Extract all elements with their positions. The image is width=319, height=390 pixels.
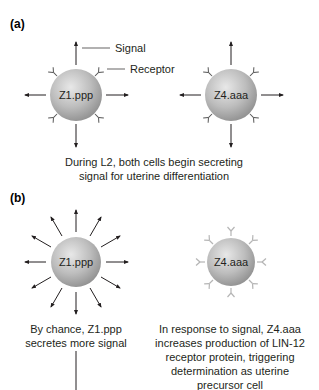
panel-b-cell-z1: Z1.ppp: [25, 210, 128, 314]
panel-b-cell-z4: Z4.aaa: [196, 227, 266, 297]
diagram-canvas: (a) Z1.ppp Signal Receptor: [0, 0, 319, 390]
signal-callout: Signal: [115, 42, 146, 54]
panel-b-right-caption-line4: determination as uterine: [171, 365, 289, 377]
panel-b-left-caption-line2: secretes more signal: [25, 337, 127, 349]
panel-a-label: (a): [10, 17, 25, 31]
panel-b-right-caption-line2: increases production of LIN-12: [155, 337, 305, 349]
panel-b-left-caption-line1: By chance, Z1.ppp: [30, 323, 122, 335]
panel-b-right-caption-line1: In response to signal, Z4.aaa: [159, 323, 302, 335]
panel-a-caption-line2: signal for uterine differentiation: [79, 170, 229, 182]
panel-a-caption-line1: During L2, both cells begin secreting: [65, 156, 243, 168]
cell-name: Z4.aaa: [214, 89, 249, 101]
cell-name: Z1.ppp: [59, 256, 93, 268]
panel-a-cell-z1: Z1.ppp: [25, 42, 128, 147]
cell-name: Z4.aaa: [214, 256, 249, 268]
receptor-callout: Receptor: [130, 63, 175, 75]
panel-a-cell-z4: Z4.aaa: [180, 42, 283, 147]
cell-name: Z1.ppp: [59, 89, 93, 101]
panel-b-right-caption-line3: receptor protein, triggering: [165, 351, 294, 363]
panel-b-label: (b): [10, 191, 25, 205]
panel-b-right-caption-line5: precursor cell: [197, 379, 263, 390]
